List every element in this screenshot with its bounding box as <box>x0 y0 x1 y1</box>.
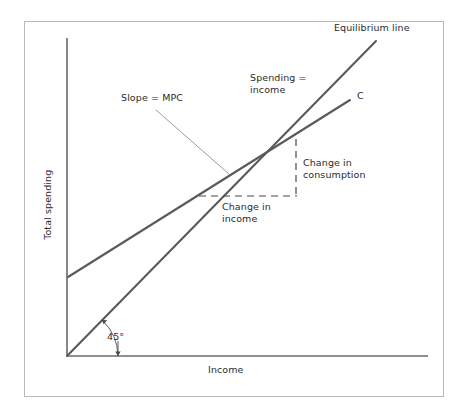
slope-mpc-label: Slope = MPC <box>121 92 183 104</box>
figure-page: Equilibrium line Spending = income Slope… <box>0 0 469 420</box>
change-in-consumption-label: Change in consumption <box>303 157 366 180</box>
change-in-income-label: Change in income <box>222 201 271 224</box>
equilibrium-line-label: Equilibrium line <box>334 22 410 34</box>
angle-45-label: 45° <box>107 331 124 343</box>
x-axis-label: Income <box>208 364 244 376</box>
angle-45-arrow-upper <box>102 320 107 324</box>
equilibrium-line <box>67 41 376 356</box>
slope-mpc-leader-line <box>156 110 229 174</box>
consumption-line-c <box>68 100 350 277</box>
consumption-curve-label: C <box>357 90 364 102</box>
y-axis-label: Total spending <box>42 142 54 268</box>
spending-equals-income-label: Spending = income <box>250 72 307 95</box>
